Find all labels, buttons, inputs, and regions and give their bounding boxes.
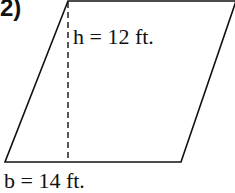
problem-number: 2) (0, 0, 21, 22)
base-label: b = 14 ft. (4, 168, 85, 193)
height-label: h = 12 ft. (73, 24, 154, 50)
